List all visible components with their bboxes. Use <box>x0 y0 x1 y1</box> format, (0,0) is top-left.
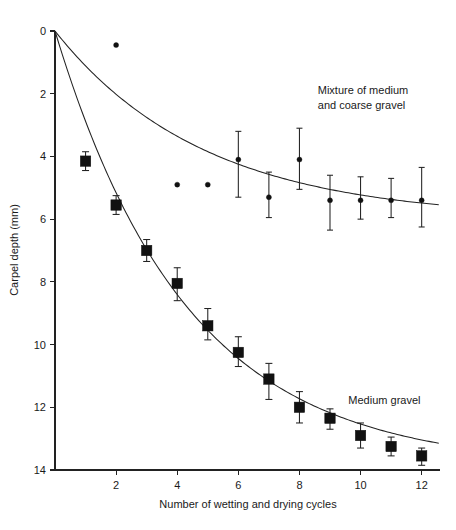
data-point-square <box>203 321 213 331</box>
data-point-dot <box>328 198 333 203</box>
y-tick-label: 4 <box>40 150 46 162</box>
data-point-square <box>172 278 182 288</box>
data-point-dot <box>358 198 363 203</box>
error-bars <box>82 128 425 465</box>
x-axis-title: Number of wetting and drying cycles <box>159 498 337 510</box>
data-point-square <box>111 200 121 210</box>
data-point-dot <box>297 157 302 162</box>
data-point-square <box>416 451 426 461</box>
data-point-square <box>325 413 335 423</box>
y-tick-label: 14 <box>34 464 46 476</box>
y-axis-title: Carpel depth (mm) <box>8 204 20 296</box>
y-tick-label: 10 <box>34 339 46 351</box>
data-point-dot <box>175 182 180 187</box>
y-tick-label: 0 <box>40 25 46 37</box>
series-annotations: Mixture of mediumand coarse gravelMedium… <box>318 84 421 406</box>
data-point-square <box>233 347 243 357</box>
data-point-square <box>294 402 304 412</box>
data-point-dot <box>114 43 119 48</box>
data-point-square <box>355 430 365 440</box>
y-tick-label: 8 <box>40 276 46 288</box>
y-axis-ticks: 02468101214 <box>34 25 55 476</box>
y-tick-label: 6 <box>40 213 46 225</box>
series-annotation-label: Medium gravel <box>348 394 420 406</box>
x-tick-label: 6 <box>235 479 241 491</box>
data-point-square <box>80 156 90 166</box>
data-point-dot <box>266 195 271 200</box>
data-point-dot <box>236 157 241 162</box>
data-point-square <box>141 245 151 255</box>
data-point-square <box>264 374 274 384</box>
data-point-dot <box>389 198 394 203</box>
data-point-dot <box>205 182 210 187</box>
data-point-square <box>386 441 396 451</box>
series-annotation-label: and coarse gravel <box>318 99 405 111</box>
x-tick-label: 8 <box>296 479 302 491</box>
series-annotation-label: Mixture of medium <box>318 84 408 96</box>
carpel-depth-plot: 02468101214 24681012 Carpel depth (mm) N… <box>0 0 456 530</box>
curve-mixture <box>55 31 439 205</box>
y-tick-label: 2 <box>40 88 46 100</box>
x-tick-label: 4 <box>174 479 180 491</box>
x-tick-label: 10 <box>354 479 366 491</box>
y-tick-label: 12 <box>34 401 46 413</box>
x-tick-label: 12 <box>416 479 428 491</box>
x-tick-label: 2 <box>113 479 119 491</box>
chart-figure: 02468101214 24681012 Carpel depth (mm) N… <box>0 0 456 530</box>
x-axis-ticks: 24681012 <box>113 470 428 491</box>
data-point-dot <box>419 198 424 203</box>
